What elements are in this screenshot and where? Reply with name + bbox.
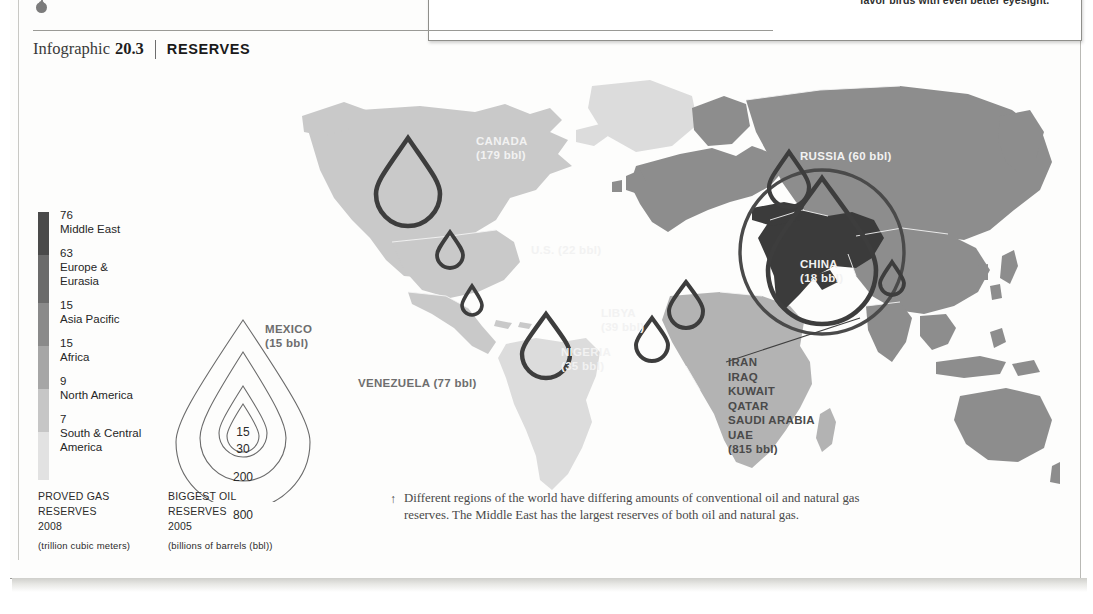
header-divider [155,40,156,59]
map-label-nigeria: NIGERIA (35 bbl) [561,346,611,373]
gas-caption-line-3: 2008 [38,519,168,534]
map-label-venezuela: VENEZUELA (77 bbl) [358,377,477,391]
world-map: .lightest{fill:#dcdcdc}.light{fill:#c9c9… [300,70,1060,500]
oil-scale-key: 15 30 200 800 [168,312,318,502]
legend-item-europe-eurasia: 63 Europe & Eurasia [60,246,200,288]
pin-icon [36,2,47,13]
infographic-page: favor birds with even better eyesight. I… [0,0,1093,614]
scale-label-15: 15 [223,425,263,439]
gas-caption-units: (trillion cubic meters) [38,538,168,553]
overlay-snippet-text: favor birds with even better eyesight. [860,0,1090,7]
scale-label-200: 200 [219,470,267,484]
legend-region: Middle East [60,222,200,236]
oil-caption-line-2: RESERVES [168,504,328,519]
legend-item-middle-east: 76 Middle East [60,208,200,236]
map-label-canada: CANADA (179 bbl) [476,135,528,162]
map-label-china: CHINA (18 bbl) [800,258,843,285]
scale-drop-200 [200,352,286,481]
oil-caption-line-1: BIGGEST OIL [168,489,328,504]
legend-value: 76 [60,208,200,222]
map-label-us: U.S. (22 bbl) [531,244,601,258]
gas-caption-line-1: PROVED GAS [38,489,168,504]
map-label-middle-east: IRAN IRAQ KUWAIT QATAR SAUDI ARABIA UAE … [728,355,815,457]
infographic-label: Infographic [33,39,110,59]
page-title: RESERVES [167,41,251,57]
oil-caption-line-3: 2005 [168,519,328,534]
legend-value: 15 [60,298,200,312]
infographic-number: 20.3 [115,39,144,59]
figure-caption: ↑ Different regions of the world have di… [404,490,874,524]
map-label-libya: LIBYA (39 bbl) [601,307,644,334]
legend-region: Europe & Eurasia [60,260,200,288]
page-shadow [12,578,1087,592]
header-rule [33,30,773,31]
page-gutter [18,0,19,560]
scale-label-30: 30 [223,442,263,456]
gas-caption-line-2: RESERVES [38,504,168,519]
gas-reserves-caption: PROVED GAS RESERVES 2008 (trillion cubic… [38,489,168,553]
map-label-russia: RUSSIA (60 bbl) [800,150,892,164]
up-arrow-icon: ↑ [390,491,396,508]
legend-value: 63 [60,246,200,260]
oil-caption-units: (billions of barrels (bbl)) [168,538,328,553]
infographic-header: Infographic 20.3 RESERVES [33,38,250,60]
oil-reserves-caption: BIGGEST OIL RESERVES 2005 (billions of b… [168,489,328,553]
legend-gradient-bar [38,212,49,480]
figure-caption-text: Different regions of the world have diff… [404,491,859,522]
